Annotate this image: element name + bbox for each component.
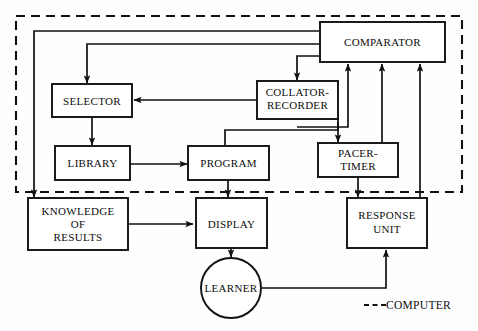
node-selector[interactable]: SELECTOR	[52, 84, 132, 117]
node-response-unit-label-line1: RESPONSE	[358, 209, 415, 221]
node-program-label: PROGRAM	[200, 157, 257, 169]
legend-computer-label: COMPUTER	[386, 299, 451, 311]
node-response-unit[interactable]: RESPONSE UNIT	[347, 198, 427, 248]
node-display[interactable]: DISPLAY	[196, 198, 267, 248]
node-pacer-timer-label-line1: PACER-	[338, 147, 378, 159]
node-knowledge-of-results-label-line2: OF	[71, 218, 86, 230]
node-collator-recorder[interactable]: COLLATOR- RECORDER	[257, 81, 338, 119]
edge-comparator-to-selector	[87, 44, 320, 83]
node-knowledge-of-results[interactable]: KNOWLEDGE OF RESULTS	[28, 198, 128, 250]
node-pacer-timer-label-line2: TIMER	[340, 160, 376, 172]
node-response-unit-label-line2: UNIT	[373, 223, 400, 235]
node-collator-recorder-label-line1: COLLATOR-	[266, 86, 330, 98]
edge-comparator-to-collator	[297, 56, 320, 80]
block-diagram: COMPARATOR SELECTOR COLLATOR- RECORDER L…	[0, 0, 478, 331]
node-display-label: DISPLAY	[208, 218, 256, 230]
node-knowledge-of-results-label-line3: RESULTS	[54, 231, 103, 243]
node-comparator-label: COMPARATOR	[344, 36, 421, 48]
node-comparator[interactable]: COMPARATOR	[320, 22, 445, 62]
edge-learner-to-response	[261, 250, 386, 288]
node-learner[interactable]: LEARNER	[201, 258, 261, 318]
node-library-label: LIBRARY	[68, 157, 118, 169]
edge-collator-to-program	[225, 118, 338, 145]
node-pacer-timer[interactable]: PACER- TIMER	[318, 143, 398, 177]
node-collator-recorder-label-line2: RECORDER	[267, 99, 328, 111]
node-library[interactable]: LIBRARY	[55, 146, 130, 180]
node-program[interactable]: PROGRAM	[188, 146, 269, 180]
node-learner-label: LEARNER	[205, 282, 258, 294]
node-knowledge-of-results-label-line1: KNOWLEDGE	[42, 205, 115, 217]
node-selector-label: SELECTOR	[63, 95, 121, 107]
legend-computer: COMPUTER	[364, 299, 451, 311]
diagram-canvas: COMPARATOR SELECTOR COLLATOR- RECORDER L…	[0, 0, 478, 331]
